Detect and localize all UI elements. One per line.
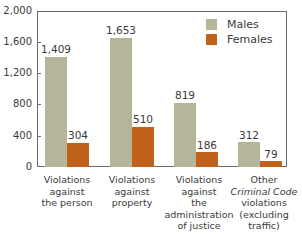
males-swatch-icon [206,19,217,30]
legend-item-females: Females [206,32,273,47]
females-swatch-icon [206,34,217,45]
bar-females-justice [196,152,218,167]
bar-females-person [67,143,89,167]
y-tick-mark [37,136,41,137]
y-tick-mark [37,73,41,74]
y-tick-2000: 2,000 [0,6,32,16]
legend-item-males: Males [206,17,273,32]
bar-females-property [132,127,154,167]
bar-males-person [45,57,67,167]
y-tick-400: 400 [0,131,32,141]
y-tick-800: 800 [0,99,32,109]
value-label: 510 [123,114,163,125]
y-tick-0: 0 [0,162,32,172]
x-label-property: Violations against property [97,174,167,209]
y-tick-1600: 1,600 [0,37,32,47]
bar-males-property [110,38,132,167]
y-tick-mark [37,104,41,105]
value-label: 1,653 [101,25,141,36]
bar-males-justice [174,103,196,167]
value-label: 186 [187,140,227,151]
value-label: 79 [251,149,291,160]
y-tick-1200: 1,200 [0,68,32,78]
value-label: 819 [165,90,205,101]
value-label: 1,409 [36,44,76,55]
legend: Males Females [206,17,273,47]
x-label-person: Violations against the person [32,174,102,209]
value-label: 312 [229,130,269,141]
value-label: 304 [58,130,98,141]
bar-females-other [260,161,282,167]
x-label-other: Other Criminal Code violations (excludin… [226,174,302,232]
